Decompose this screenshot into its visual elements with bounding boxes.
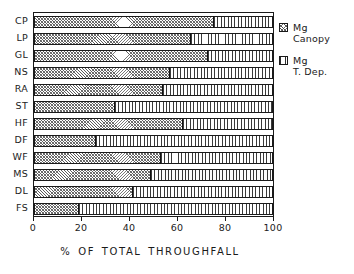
bar-row bbox=[34, 50, 273, 62]
stacked-bar bbox=[34, 118, 273, 130]
bar-segment-canopy bbox=[34, 50, 208, 62]
bar-row bbox=[34, 135, 273, 147]
bar-row bbox=[34, 84, 273, 96]
legend-label: MgCanopy bbox=[293, 22, 330, 44]
y-axis-label-cp: CP bbox=[0, 16, 28, 26]
x-axis-tick bbox=[177, 217, 178, 221]
bar-row bbox=[34, 118, 273, 130]
bar-segment-t-dep bbox=[161, 152, 273, 164]
legend-label-line2: Canopy bbox=[293, 33, 330, 44]
x-axis-tick-label: 20 bbox=[61, 222, 101, 233]
bar-row bbox=[34, 67, 273, 79]
bar-row bbox=[34, 16, 273, 28]
bar-segment-canopy bbox=[34, 169, 151, 181]
stacked-bar bbox=[34, 152, 273, 164]
stacked-bar bbox=[34, 50, 273, 62]
y-axis-label-dl: DL bbox=[0, 186, 28, 196]
legend-entry: MgCanopy bbox=[279, 22, 354, 44]
bar-segment-canopy bbox=[34, 118, 183, 130]
stacked-bar bbox=[34, 84, 273, 96]
x-axis-tick bbox=[81, 217, 82, 221]
stacked-bar bbox=[34, 101, 273, 113]
y-axis-label-ra: RA bbox=[0, 84, 28, 94]
legend-swatch-t-dep bbox=[279, 56, 288, 65]
x-axis-tick-label: 100 bbox=[253, 222, 293, 233]
legend-label: MgT. Dep. bbox=[293, 55, 327, 77]
x-axis-tick bbox=[129, 217, 130, 221]
bar-segment-canopy bbox=[34, 33, 191, 45]
bar-segment-t-dep bbox=[115, 101, 273, 113]
bar-segment-t-dep bbox=[79, 203, 273, 215]
bar-segment-canopy bbox=[34, 16, 214, 28]
stacked-bar-chart: CPLPGLNSRASTHFDFWFMSDLFS 020406080100 % … bbox=[0, 0, 354, 274]
x-axis-tick-label: 40 bbox=[109, 222, 149, 233]
bar-row bbox=[34, 33, 273, 45]
y-axis-label-hf: HF bbox=[0, 118, 28, 128]
stacked-bar bbox=[34, 135, 273, 147]
stacked-bar bbox=[34, 67, 273, 79]
stacked-bar bbox=[34, 33, 273, 45]
legend-label-line2: T. Dep. bbox=[293, 66, 327, 77]
bar-segment-canopy bbox=[34, 186, 133, 198]
legend-entry: MgT. Dep. bbox=[279, 55, 354, 77]
bar-segment-t-dep bbox=[214, 16, 273, 28]
x-axis-title: % OF TOTAL THROUGHFALL bbox=[0, 246, 300, 257]
stacked-bar bbox=[34, 16, 273, 28]
x-axis-tick bbox=[33, 217, 34, 221]
x-axis-tick bbox=[225, 217, 226, 221]
y-axis-label-lp: LP bbox=[0, 33, 28, 43]
bar-row bbox=[34, 152, 273, 164]
stacked-bar bbox=[34, 186, 273, 198]
bar-segment-canopy bbox=[34, 135, 96, 147]
y-axis-label-wf: WF bbox=[0, 152, 28, 162]
legend-label-line1: Mg bbox=[293, 22, 308, 33]
bar-segment-t-dep bbox=[163, 84, 273, 96]
bar-segment-t-dep bbox=[183, 118, 273, 130]
bar-segment-canopy bbox=[34, 101, 115, 113]
y-axis-label-st: ST bbox=[0, 101, 28, 111]
y-axis-label-ms: MS bbox=[0, 169, 28, 179]
y-axis-label-df: DF bbox=[0, 135, 28, 145]
bar-segment-t-dep bbox=[208, 50, 273, 62]
bar-row bbox=[34, 169, 273, 181]
x-axis-tick-label: 0 bbox=[13, 222, 53, 233]
x-axis-tick-label: 60 bbox=[157, 222, 197, 233]
bar-row bbox=[34, 203, 273, 215]
bar-row bbox=[34, 101, 273, 113]
legend-swatch-canopy bbox=[279, 23, 288, 32]
chart-legend: MgCanopyMgT. Dep. bbox=[279, 22, 354, 88]
bar-segment-t-dep bbox=[96, 135, 273, 147]
stacked-bar bbox=[34, 169, 273, 181]
bar-segment-canopy bbox=[34, 152, 161, 164]
y-axis-label-gl: GL bbox=[0, 50, 28, 60]
legend-label-line1: Mg bbox=[293, 55, 308, 66]
bar-segment-canopy bbox=[34, 84, 163, 96]
x-axis: 020406080100 bbox=[33, 217, 274, 243]
y-axis-label-ns: NS bbox=[0, 67, 28, 77]
stacked-bar bbox=[34, 203, 273, 215]
x-axis-tick bbox=[273, 217, 274, 221]
bar-segment-canopy bbox=[34, 203, 79, 215]
bar-row bbox=[34, 186, 273, 198]
plot-area bbox=[33, 12, 274, 217]
bar-segment-t-dep bbox=[170, 67, 273, 79]
bar-segment-t-dep bbox=[151, 169, 273, 181]
x-axis-tick-label: 80 bbox=[205, 222, 245, 233]
y-axis-label-fs: FS bbox=[0, 203, 28, 213]
bar-segment-t-dep bbox=[133, 186, 273, 198]
bar-segment-t-dep bbox=[191, 33, 273, 45]
bar-segment-canopy bbox=[34, 67, 170, 79]
